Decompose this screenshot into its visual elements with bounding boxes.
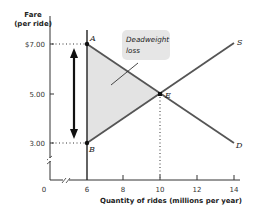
point-A [85,42,89,46]
callout-line-1: Deadweight [126,35,170,44]
point-E [158,92,162,96]
x-tick-8: 8 [121,186,125,194]
x-tick-0: 0 [42,186,46,194]
label-E: E [164,91,171,100]
label-A: A [89,34,96,43]
y-tick-3: 3.00 [29,140,45,148]
x-tick-12: 12 [193,186,202,194]
label-D: D [235,141,243,150]
x-axis [50,175,240,183]
double-arrow-icon [70,48,78,139]
y-axis-title-2: (per ride) [14,20,52,28]
x-tick-6: 6 [85,186,90,194]
y-tick-5: 5.00 [29,91,45,99]
y-axis [47,16,54,180]
x-axis-title: Quantity of rides (millions per year) [100,197,242,205]
x-tick-10: 10 [156,186,165,194]
callout-line-2: loss [126,46,140,55]
y-axis-title-1: Fare [24,11,42,19]
label-B: B [88,145,95,154]
deadweight-loss-chart: Deadweight loss A B E S D Fare (per ride… [0,0,266,216]
y-tick-7: $7.00 [25,41,45,49]
x-tick-14: 14 [230,186,239,194]
label-S: S [237,38,243,47]
